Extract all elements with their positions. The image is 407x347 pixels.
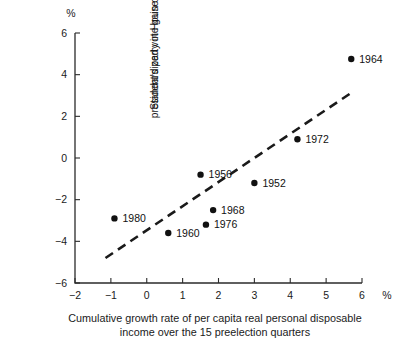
x-tick-label: 4	[287, 289, 293, 301]
x-axis-caption: Cumulative growth rate of per capita rea…	[68, 312, 361, 338]
data-point-marker	[165, 230, 171, 236]
data-point-label: 1968	[221, 204, 245, 216]
x-tick-label: 3	[251, 289, 257, 301]
data-point-label: 1976	[214, 218, 238, 230]
data-point-marker	[203, 221, 209, 227]
x-axis-caption-line2: income over the 15 preelection quarters	[120, 326, 311, 338]
data-point-label: 1960	[176, 227, 200, 239]
plot-canvas: 6420−2−4−6 −2−10123456 19641972195219561…	[0, 0, 407, 347]
data-point-marker	[348, 56, 354, 62]
x-tick-label: 6	[359, 289, 365, 301]
y-axis-label-line2: president's party in House elections	[149, 0, 160, 118]
axis-unit-group: %%	[66, 7, 391, 301]
axes-group	[75, 33, 362, 283]
data-point-label: 1964	[359, 53, 383, 65]
x-tick-label: 1	[180, 289, 186, 301]
x-tick-label: −2	[69, 289, 81, 301]
y-axis-label: Standardized vote gain or loss by thepre…	[149, 0, 160, 118]
y-tick-label: −6	[55, 277, 67, 289]
data-point-label: 1972	[305, 133, 329, 145]
data-point-marker	[251, 180, 257, 186]
x-tick-label: 0	[144, 289, 150, 301]
scatter-chart-figure: 6420−2−4−6 −2−10123456 19641972195219561…	[0, 0, 407, 347]
data-point-marker	[197, 171, 203, 177]
data-point-label: 1980	[122, 212, 146, 224]
y-tick-label: 6	[61, 27, 67, 39]
data-point-label: 1956	[209, 168, 233, 180]
y-axis-tick-group: 6420−2−4−6	[55, 27, 80, 289]
x-axis-tick-group: −2−10123456	[69, 278, 365, 301]
data-point-label: 1952	[262, 177, 286, 189]
y-tick-label: 4	[61, 68, 67, 80]
y-tick-label: 2	[61, 110, 67, 122]
x-axis-caption-line1: Cumulative growth rate of per capita rea…	[68, 312, 361, 324]
y-tick-label: −2	[55, 193, 67, 205]
data-point-marker	[294, 136, 300, 142]
y-tick-label: 0	[61, 152, 67, 164]
axis-lines	[75, 33, 362, 283]
data-point-marker	[210, 207, 216, 213]
y-axis-unit-label: %	[66, 7, 75, 19]
x-tick-label: −1	[105, 289, 117, 301]
x-axis-unit-label: %	[382, 289, 391, 301]
data-point-marker	[111, 215, 117, 221]
y-tick-label: −4	[55, 235, 67, 247]
x-tick-label: 5	[323, 289, 329, 301]
x-tick-label: 2	[216, 289, 222, 301]
